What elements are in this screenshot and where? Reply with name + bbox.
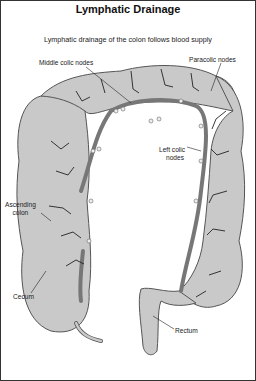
label-ascending-line2: colon (5, 209, 36, 217)
label-cecum: Cecum (13, 293, 34, 301)
blood-vessels (80, 100, 206, 301)
label-paracolic-nodes: Paracolic nodes (189, 56, 236, 64)
label-middle-colic-nodes: Middle colic nodes (39, 59, 93, 67)
label-left-colic-line2: nodes (159, 154, 185, 162)
appendix (76, 323, 101, 341)
label-ascending-line1: Ascending (5, 201, 36, 209)
label-left-colic-line1: Left colic (159, 146, 185, 154)
label-left-colic-nodes: Left colic nodes (159, 146, 185, 162)
label-rectum: Rectum (175, 327, 198, 335)
diagram-frame: Lymphatic Drainage Lymphatic drainage of… (0, 0, 256, 381)
colon-shape (17, 66, 245, 355)
label-ascending-colon: Ascending colon (5, 201, 36, 217)
